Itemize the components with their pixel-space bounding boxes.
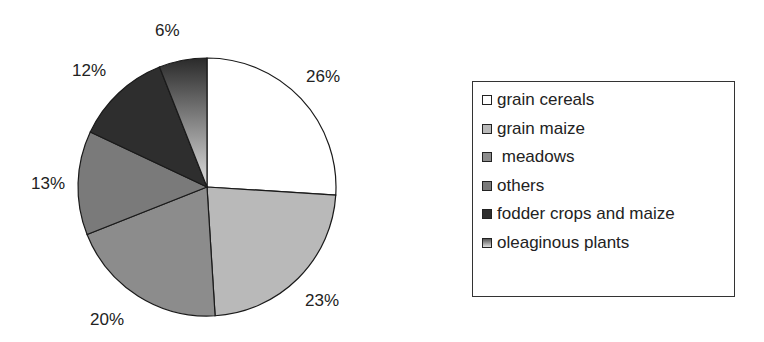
legend-item-oleaginous-plants: oleaginous plants xyxy=(473,233,629,253)
legend-label: oleaginous plants xyxy=(497,233,629,253)
legend-item-fodder-crops: fodder crops and maize xyxy=(473,204,675,224)
legend-label: grain maize xyxy=(497,119,585,139)
pie-label-meadows: 20% xyxy=(90,311,124,328)
legend-item-meadows: meadows xyxy=(473,147,574,167)
pie-label-fodder: 12% xyxy=(72,62,106,79)
legend-swatch-icon xyxy=(482,152,492,162)
legend-item-grain-cereals: grain cereals xyxy=(473,90,594,110)
legend-label: fodder crops and maize xyxy=(497,204,675,224)
legend-label: others xyxy=(497,176,544,196)
legend-swatch-icon xyxy=(482,95,492,105)
legend-swatch-icon xyxy=(482,209,492,219)
legend-swatch-icon xyxy=(482,238,492,248)
legend-swatch-icon xyxy=(482,181,492,191)
pie-label-oleaginous: 6% xyxy=(155,22,180,39)
legend-swatch-icon xyxy=(482,124,492,134)
legend-item-others: others xyxy=(473,176,544,196)
pie-label-grain-cereals: 26% xyxy=(306,68,340,85)
legend-label: meadows xyxy=(497,147,574,167)
legend-label: grain cereals xyxy=(497,90,594,110)
chart-legend: grain cereals grain maize meadows others… xyxy=(472,81,735,297)
pie-label-others: 13% xyxy=(31,175,65,192)
legend-item-grain-maize: grain maize xyxy=(473,119,585,139)
pie-label-grain-maize: 23% xyxy=(305,292,339,309)
